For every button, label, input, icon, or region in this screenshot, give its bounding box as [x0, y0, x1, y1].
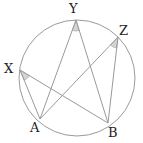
chord-za [40, 37, 118, 119]
chords [20, 20, 118, 123]
point-label-y: Y [68, 1, 78, 16]
diagram-canvas: X Y Z A B [0, 0, 143, 143]
inscribed-angle-diagram: X Y Z A B [0, 0, 143, 143]
point-label-z: Z [119, 23, 128, 38]
chord-yb [76, 20, 108, 123]
chord-ya [40, 20, 76, 119]
angle-marks [20, 20, 118, 80]
chord-zb [108, 37, 118, 123]
point-label-b: B [108, 125, 118, 140]
point-label-a: A [29, 120, 40, 135]
chord-xb [20, 70, 108, 123]
point-label-x: X [4, 61, 14, 76]
